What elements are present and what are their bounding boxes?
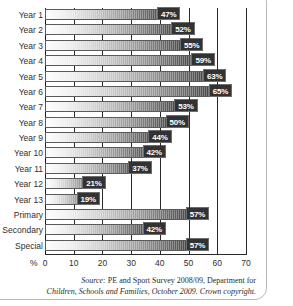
bar-texture — [46, 210, 208, 219]
bar-texture — [46, 56, 213, 65]
axis-tick — [74, 205, 75, 209]
axis-tick — [217, 20, 218, 24]
axis-tick — [102, 82, 103, 86]
bar-row: 57% — [45, 239, 246, 254]
axis-tick — [217, 189, 218, 193]
x-tick-label-10: 10 — [63, 258, 85, 268]
axis-tick — [189, 158, 190, 162]
axis-tick — [217, 112, 218, 116]
axis-tick — [160, 174, 161, 178]
axis-tick — [246, 205, 247, 209]
bar-row: 55% — [45, 39, 246, 54]
axis-tick — [217, 174, 218, 178]
bar-row: 42% — [45, 223, 246, 238]
bar-value-label: 55% — [180, 38, 203, 51]
axis-tick — [189, 128, 190, 132]
bar — [45, 209, 209, 220]
axis-tick — [131, 97, 132, 101]
axis-tick — [160, 158, 161, 162]
bar-value-label: 44% — [148, 130, 171, 143]
axis-tick — [217, 66, 218, 70]
axis-tick — [74, 66, 75, 70]
axis-tick — [74, 97, 75, 101]
bar-value-label: 50% — [166, 115, 189, 128]
axis-tick — [102, 189, 103, 193]
axis-tick — [102, 20, 103, 24]
bar-value-label: 59% — [191, 53, 214, 66]
axis-tick — [74, 158, 75, 162]
axis-tick — [246, 128, 247, 132]
axis-tick — [160, 189, 161, 193]
axis-tick — [74, 82, 75, 86]
y-axis-label: Year 8 — [0, 118, 43, 128]
axis-tick — [246, 220, 247, 224]
axis-tick — [189, 112, 190, 116]
axis-tick — [102, 97, 103, 101]
bar — [45, 71, 226, 82]
axis-tick — [160, 20, 161, 24]
axis-tick — [102, 66, 103, 70]
x-tick-label-50: 50 — [178, 258, 200, 268]
axis-tick — [74, 235, 75, 239]
x-tick-label-30: 30 — [120, 258, 142, 268]
bar-row: 57% — [45, 208, 246, 223]
x-axis-tick-labels: % 010203040506070 — [0, 258, 293, 272]
bar-value-label: 63% — [203, 69, 226, 82]
source-caption: Source: PE and Sport Survey 2008/09, Dep… — [20, 276, 256, 297]
axis-tick — [131, 128, 132, 132]
y-axis-label: Year 12 — [0, 179, 43, 189]
axis-tick — [246, 20, 247, 24]
x-tick-label-0: 0 — [34, 258, 56, 268]
bar-value-label: 57% — [186, 238, 209, 251]
bar-value-label: 19% — [77, 192, 100, 205]
axis-tick — [131, 189, 132, 193]
bar-value-label: 52% — [171, 22, 194, 35]
axis-tick — [102, 220, 103, 224]
axis-tick — [160, 128, 161, 132]
bar-row: 42% — [45, 146, 246, 161]
axis-tick — [74, 112, 75, 116]
axis-tick — [246, 66, 247, 70]
axis-tick — [246, 35, 247, 39]
bar-row: 52% — [45, 23, 246, 38]
axis-tick — [102, 235, 103, 239]
axis-tick — [246, 82, 247, 86]
bar-texture — [46, 241, 208, 250]
axis-tick — [217, 158, 218, 162]
axis-tick — [160, 220, 161, 224]
axis-tick — [160, 35, 161, 39]
axis-tick — [189, 174, 190, 178]
y-axis-label: Year 11 — [0, 164, 43, 174]
axis-tick — [74, 20, 75, 24]
axis-tick — [246, 158, 247, 162]
axis-tick — [74, 143, 75, 147]
axis-tick — [131, 220, 132, 224]
bar-row: 53% — [45, 100, 246, 115]
axis-tick — [102, 205, 103, 209]
bar-texture — [46, 72, 225, 81]
axis-tick — [217, 82, 218, 86]
y-axis-label: Year 13 — [0, 195, 43, 205]
axis-tick — [189, 143, 190, 147]
axis-tick — [131, 235, 132, 239]
axis-tick — [102, 128, 103, 132]
y-axis-label: Year 6 — [0, 87, 43, 97]
axis-tick — [102, 35, 103, 39]
y-axis-label: Year 10 — [0, 148, 43, 158]
axis-tick — [160, 82, 161, 86]
axis-tick — [246, 251, 247, 255]
y-axis-label: Special — [0, 241, 43, 251]
bar-value-label: 37% — [128, 161, 151, 174]
axis-tick — [160, 51, 161, 55]
axis-tick — [131, 66, 132, 70]
bar — [45, 86, 232, 97]
bar-value-label: 42% — [143, 222, 166, 235]
axis-tick — [131, 51, 132, 55]
axis-tick — [189, 97, 190, 101]
bar-texture — [46, 87, 231, 96]
axis-tick — [160, 143, 161, 147]
y-axis-label: Secondary — [0, 225, 43, 235]
axis-tick — [131, 174, 132, 178]
axis-tick — [102, 112, 103, 116]
axis-tick — [189, 20, 190, 24]
